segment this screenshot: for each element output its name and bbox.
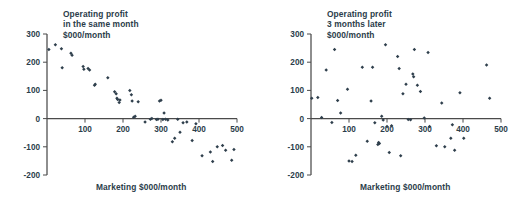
data-point <box>106 76 110 80</box>
y-axis-tick-label: -100 <box>24 143 41 152</box>
data-point <box>384 43 388 47</box>
x-axis-tick-label: 100 <box>78 125 92 134</box>
data-point <box>453 148 457 152</box>
data-point <box>399 154 403 158</box>
data-point <box>60 47 64 51</box>
data-point <box>419 90 423 94</box>
data-point <box>181 121 185 125</box>
x-axis-tick-label: 400 <box>192 125 206 134</box>
data-point <box>178 130 182 134</box>
y-axis-tick-label: -200 <box>288 171 305 180</box>
y-axis-tick-label: 200 <box>290 58 304 67</box>
data-point <box>369 99 373 103</box>
y-axis-tick-label: -200 <box>24 171 41 180</box>
x-axis-tick-label: 500 <box>494 125 508 134</box>
data-point <box>162 111 166 115</box>
data-point <box>435 144 439 148</box>
data-point <box>200 154 204 158</box>
scatter-plot-three-months-later: -200-1000100200300100200300400500 <box>264 0 527 206</box>
data-point <box>324 68 328 72</box>
data-point <box>462 137 466 141</box>
data-point <box>176 117 180 121</box>
data-point-group <box>310 43 491 163</box>
y-axis-tick-label: 100 <box>290 86 304 95</box>
data-point <box>401 92 405 96</box>
data-point <box>230 159 234 163</box>
chart-panel-three-months-later: Operating profit 3 months later $000/mon… <box>264 0 527 206</box>
y-axis-tick-label: 100 <box>26 86 40 95</box>
data-point <box>354 154 358 158</box>
y-axis-tick-label: 0 <box>35 115 40 124</box>
data-point <box>130 99 134 103</box>
data-point <box>60 66 64 70</box>
data-point <box>190 139 194 143</box>
data-point <box>143 120 147 124</box>
data-point <box>413 48 417 52</box>
data-point <box>224 148 228 152</box>
data-point <box>440 101 444 105</box>
data-point <box>128 89 132 93</box>
data-point <box>443 145 447 149</box>
data-point <box>54 43 58 47</box>
data-point <box>451 123 455 127</box>
data-point <box>411 72 415 76</box>
data-point <box>396 55 400 59</box>
data-point <box>221 144 225 148</box>
data-point <box>361 66 365 70</box>
data-point <box>232 148 236 152</box>
data-point <box>316 96 320 100</box>
data-point <box>347 159 351 163</box>
y-axis-tick-label: 300 <box>290 30 304 39</box>
data-point <box>330 121 334 125</box>
chart-panel-same-month: Operating profit in the same month $000/… <box>0 0 263 206</box>
data-point <box>380 115 384 119</box>
data-point <box>185 120 189 124</box>
x-axis-tick-label: 200 <box>116 125 130 134</box>
x-axis-label-three-months-later: Marketing $000/month <box>360 182 450 192</box>
data-point <box>350 160 354 164</box>
data-point <box>47 48 51 52</box>
data-point <box>130 93 134 97</box>
data-point <box>82 68 86 72</box>
y-axis-tick-label: 0 <box>299 115 304 124</box>
data-point <box>211 160 215 164</box>
data-point <box>488 97 492 101</box>
data-point <box>346 88 350 92</box>
y-axis-tick-label: 200 <box>26 58 40 67</box>
x-axis-tick-label: 300 <box>154 125 168 134</box>
y-axis-tick-label: -100 <box>288 143 305 152</box>
data-point <box>215 145 219 149</box>
data-point <box>333 48 337 52</box>
data-point <box>336 99 340 103</box>
data-point <box>397 67 401 71</box>
data-point <box>404 82 408 86</box>
x-axis-tick-label: 100 <box>342 125 356 134</box>
data-point <box>416 84 420 88</box>
data-point <box>81 65 85 69</box>
data-point <box>209 150 213 154</box>
data-point-group <box>47 43 236 163</box>
data-point <box>117 101 121 105</box>
data-point <box>412 75 416 79</box>
x-axis-tick-label: 400 <box>456 125 470 134</box>
y-axis-tick-label: 300 <box>26 30 40 39</box>
data-point <box>365 139 369 143</box>
data-point <box>388 151 392 155</box>
data-point <box>373 121 377 125</box>
data-point <box>339 111 343 115</box>
data-point <box>173 137 177 141</box>
x-axis-tick-label: 500 <box>230 125 244 134</box>
data-point <box>171 140 175 144</box>
data-point <box>426 51 430 55</box>
data-point <box>458 91 462 95</box>
x-axis-label-same-month: Marketing $000/month <box>96 182 186 192</box>
data-point <box>371 66 375 70</box>
data-point <box>136 100 140 104</box>
scatter-plot-same-month: -200-1000100200300100200300400500 <box>0 0 263 206</box>
scatter-plot-figure: Operating profit in the same month $000/… <box>0 0 527 206</box>
data-point <box>485 63 489 66</box>
data-point <box>449 137 453 141</box>
